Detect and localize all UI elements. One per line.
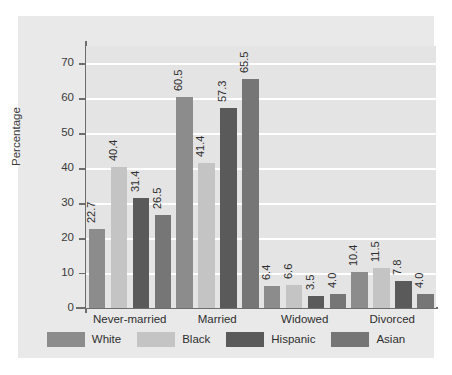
- legend-item-white[interactable]: White: [47, 332, 121, 347]
- bar-value-label: 4.0: [327, 273, 338, 288]
- bar-value-label: 6.4: [261, 264, 272, 279]
- bar[interactable]: 57.3: [220, 108, 237, 308]
- legend-swatch: [226, 332, 264, 347]
- gridline: [86, 168, 436, 170]
- bar[interactable]: 31.4: [133, 198, 150, 308]
- bar[interactable]: 10.4: [351, 272, 368, 308]
- gridline: [86, 133, 436, 135]
- legend-item-asian[interactable]: Asian: [331, 332, 405, 347]
- y-axis-tick: [79, 168, 86, 169]
- gridline: [86, 63, 436, 65]
- bar-value-label: 60.5: [173, 69, 184, 90]
- bar[interactable]: 40.4: [111, 167, 128, 308]
- y-axis-tick-label: 20: [30, 232, 74, 244]
- y-axis-tick-label: 30: [30, 197, 74, 209]
- y-axis-tick-label: 50: [30, 127, 74, 139]
- legend-item-hispanic[interactable]: Hispanic: [226, 332, 315, 347]
- chart-figure: Percentage 010203040506070 22.740.431.42…: [0, 0, 452, 375]
- gridline: [86, 98, 436, 100]
- y-axis-tick: [79, 133, 86, 134]
- bar-value-label: 7.8: [392, 259, 403, 274]
- x-axis-category-label: Divorced: [349, 313, 437, 325]
- legend-swatch: [47, 332, 85, 347]
- bar-value-label: 3.5: [305, 274, 316, 289]
- bar-value-label: 65.5: [239, 52, 250, 73]
- y-axis-tick: [79, 308, 86, 309]
- bar-value-label: 57.3: [217, 80, 228, 101]
- legend-swatch: [331, 332, 369, 347]
- legend-label: Hispanic: [271, 333, 315, 345]
- legend-swatch: [137, 332, 175, 347]
- plot-area: 22.740.431.426.560.541.457.365.56.46.63.…: [86, 46, 436, 308]
- y-axis-tick-label: 10: [30, 267, 74, 279]
- bar-value-label: 22.7: [86, 201, 97, 222]
- bar-value-label: 6.6: [283, 264, 294, 279]
- bar-value-label: 11.5: [370, 241, 381, 262]
- bar[interactable]: 41.4: [198, 163, 215, 308]
- bar[interactable]: 11.5: [373, 268, 390, 308]
- bar[interactable]: 3.5: [308, 296, 325, 308]
- y-axis-label: Percentage: [10, 107, 22, 166]
- bar[interactable]: 6.6: [286, 285, 303, 308]
- bar[interactable]: 7.8: [395, 281, 412, 308]
- y-axis-tick: [79, 273, 86, 274]
- legend-label: Asian: [376, 333, 405, 345]
- legend-label: Black: [182, 333, 210, 345]
- chart-panel: Percentage 010203040506070 22.740.431.42…: [18, 16, 434, 358]
- bar[interactable]: 22.7: [89, 229, 106, 308]
- bar-value-label: 4.0: [414, 273, 425, 288]
- y-axis-tick: [79, 98, 86, 99]
- bar-value-label: 26.5: [152, 188, 163, 209]
- bar[interactable]: 65.5: [242, 79, 259, 308]
- y-axis-tick-label: 40: [30, 162, 74, 174]
- bar[interactable]: 26.5: [155, 215, 172, 308]
- bar[interactable]: 60.5: [176, 97, 193, 308]
- x-axis-category-label: Married: [174, 313, 262, 325]
- bar-value-label: 40.4: [108, 139, 119, 160]
- bar-value-label: 41.4: [195, 136, 206, 157]
- bar-value-label: 31.4: [130, 171, 141, 192]
- bar[interactable]: 4.0: [417, 294, 434, 308]
- y-axis-tick: [79, 63, 86, 64]
- legend-label: White: [92, 333, 121, 345]
- y-axis-tick: [79, 238, 86, 239]
- chart-legend: WhiteBlackHispanicAsian: [18, 328, 434, 350]
- y-axis-tick-label: 60: [30, 92, 74, 104]
- x-axis-category-label: Never-married: [86, 313, 174, 325]
- x-axis-category-label: Widowed: [261, 313, 349, 325]
- legend-item-black[interactable]: Black: [137, 332, 210, 347]
- bar[interactable]: 6.4: [264, 286, 281, 308]
- y-axis-tick-label: 0: [30, 302, 74, 314]
- bar-value-label: 10.4: [348, 244, 359, 265]
- y-axis-tick-label: 70: [30, 57, 74, 69]
- bar[interactable]: 4.0: [330, 294, 347, 308]
